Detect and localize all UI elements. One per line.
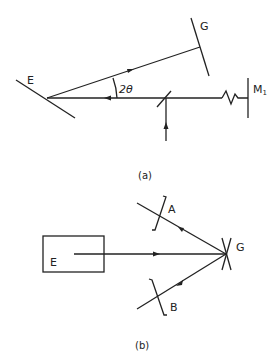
label-angle: 2θ: [119, 83, 133, 96]
arrow-icon: [178, 227, 184, 232]
arrow-left-icon: [104, 96, 111, 101]
spring-icon: [222, 91, 248, 104]
beam-splitter: [157, 91, 171, 107]
optics-diagram: E G 2θ M1 (a) E G A B (b): [0, 0, 276, 359]
label-e: E: [27, 74, 34, 87]
label-g: G: [200, 20, 209, 33]
label-b: B: [170, 301, 178, 314]
caption-b: (b): [135, 340, 149, 351]
label-e: E: [50, 256, 57, 269]
arrow-right-icon: [153, 252, 160, 257]
angle-arc: [113, 78, 117, 98]
mirror-e: [16, 80, 75, 118]
label-g: G: [236, 241, 245, 254]
label-a: A: [168, 203, 176, 216]
arrow-up-icon: [164, 122, 169, 129]
label-m1: M1: [253, 83, 267, 97]
caption-a: (a): [138, 170, 152, 181]
arrow-icon: [127, 69, 134, 73]
lens-b: [149, 279, 167, 315]
figure-b: E G A B (b): [43, 196, 245, 351]
figure-a: E G 2θ M1 (a): [16, 18, 267, 181]
